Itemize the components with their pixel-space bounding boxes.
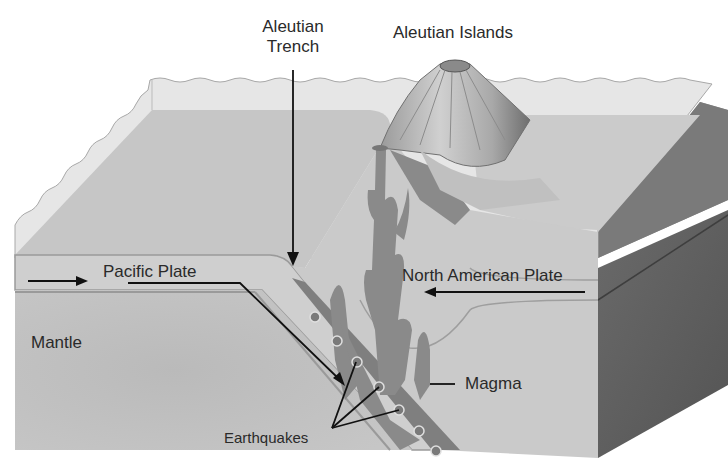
subduction-diagram: Aleutian Trench Aleutian Islands Pacific…	[0, 0, 728, 462]
label-aleutian-islands: Aleutian Islands	[393, 23, 513, 43]
label-north-american-plate: North American Plate	[402, 266, 563, 286]
label-aleutian-trench: Aleutian Trench	[252, 17, 334, 57]
label-trench-line2: Trench	[252, 37, 334, 57]
label-mantle: Mantle	[31, 333, 82, 353]
label-magma: Magma	[465, 374, 522, 394]
label-earthquakes: Earthquakes	[224, 428, 308, 448]
label-pacific-plate: Pacific Plate	[103, 262, 197, 282]
diagram-canvas	[0, 0, 728, 462]
label-trench-line1: Aleutian	[252, 17, 334, 37]
